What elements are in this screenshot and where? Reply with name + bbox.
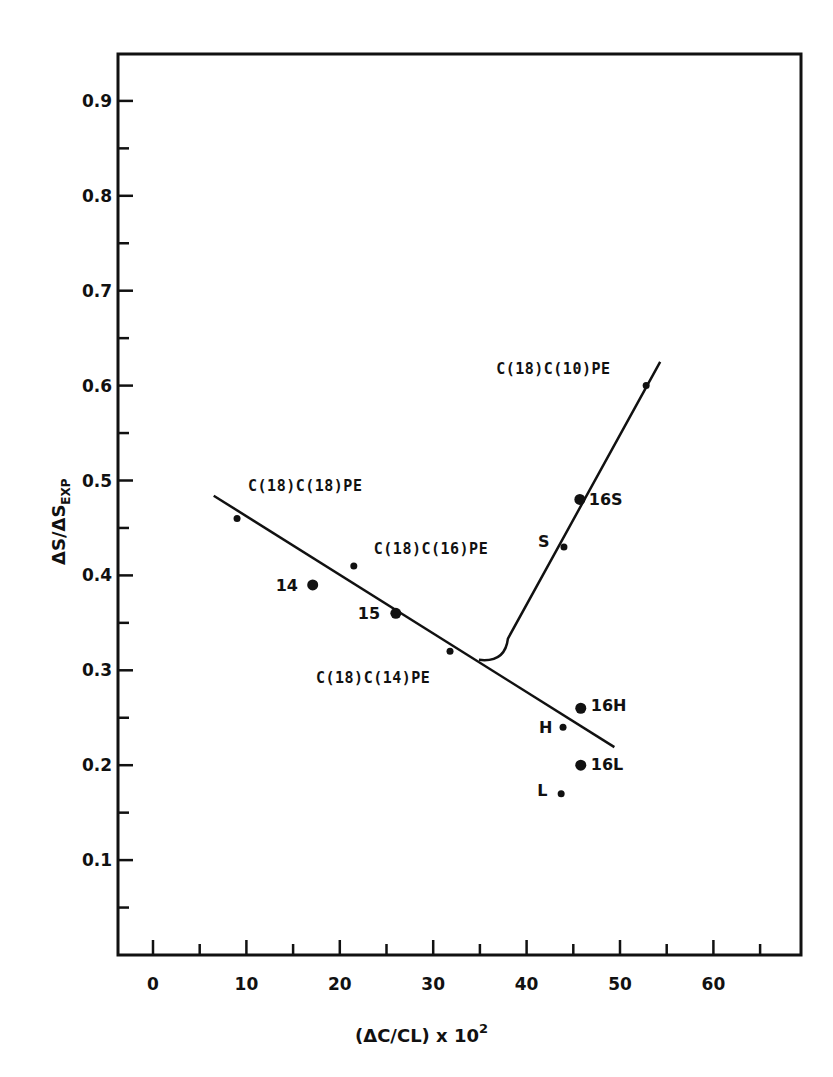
y-tick-label: 0.1	[82, 850, 112, 870]
data-point-c-18-c-14-pe	[447, 648, 454, 655]
x-tick-label: 10	[235, 974, 259, 994]
x-tick-label: 0	[147, 974, 159, 994]
plot-frame	[118, 54, 801, 955]
data-point-c-18-c-18-pe	[234, 515, 241, 522]
data-point-l	[558, 790, 565, 797]
x-tick-label: 20	[328, 974, 352, 994]
point-label: C(18)C(10)PE	[496, 360, 610, 378]
point-label: 16H	[591, 696, 627, 715]
data-point-16l	[575, 760, 586, 771]
increasing-fit-curve	[479, 362, 660, 660]
x-tick-label: 60	[702, 974, 726, 994]
x-axis-title: (ΔC/CL) x 102	[355, 1021, 488, 1046]
point-label: 14	[276, 576, 298, 595]
data-point-c-18-c-16-pe	[350, 562, 357, 569]
y-tick-label: 0.8	[82, 186, 112, 206]
y-tick-label: 0.4	[82, 565, 112, 585]
point-label: S	[538, 532, 550, 551]
y-tick-label: 0.2	[82, 755, 112, 775]
y-tick-label: 0.3	[82, 660, 112, 680]
y-tick-label: 0.6	[82, 376, 112, 396]
y-tick-label: 0.9	[82, 91, 112, 111]
y-axis-ticks: 0.10.20.30.40.50.60.70.80.9	[82, 91, 133, 908]
data-point-h	[560, 724, 567, 731]
decreasing-fit-line	[214, 496, 615, 747]
chart: 0.10.20.30.40.50.60.70.80.9 010203040506…	[0, 0, 833, 1077]
y-axis-title: ΔS/ΔSEXP	[48, 478, 73, 565]
data-point-15	[390, 608, 401, 619]
y-tick-label: 0.7	[82, 281, 112, 301]
data-point-s	[560, 543, 567, 550]
data-point-c-18-c-10-pe	[643, 382, 650, 389]
x-tick-label: 40	[515, 974, 539, 994]
point-label: H	[539, 718, 552, 737]
point-label: 15	[358, 604, 380, 623]
x-tick-label: 30	[421, 974, 445, 994]
point-label: C(18)C(16)PE	[374, 540, 488, 558]
point-label: C(18)C(14)PE	[316, 669, 430, 687]
point-label: 16S	[589, 490, 623, 509]
y-tick-label: 0.5	[82, 471, 112, 491]
point-label: C(18)C(18)PE	[248, 477, 362, 495]
data-point-14	[307, 579, 318, 590]
point-label: 16L	[591, 755, 623, 774]
x-tick-label: 50	[608, 974, 632, 994]
data-point-16h	[575, 703, 586, 714]
point-label: L	[537, 781, 547, 800]
x-axis-ticks: 0102030405060	[147, 940, 760, 994]
point-labels: C(18)C(18)PE14C(18)C(16)PE15C(18)C(14)PE…	[248, 360, 626, 800]
data-point-16s	[574, 494, 585, 505]
